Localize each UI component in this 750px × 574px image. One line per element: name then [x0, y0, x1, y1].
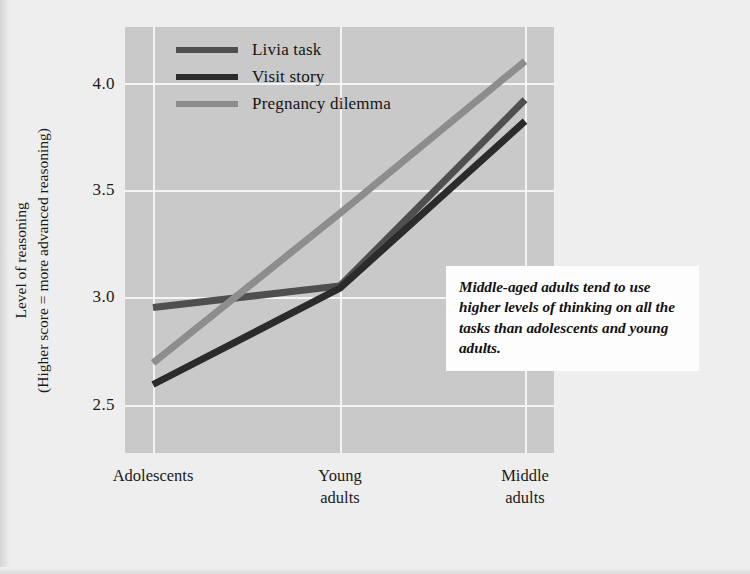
legend-item-label: Visit story — [252, 67, 325, 87]
legend-item-label: Livia task — [252, 40, 322, 60]
y-tick-label: 4.0 — [93, 74, 115, 94]
y-tick-label: 3.0 — [93, 287, 115, 307]
annotation-callout: Middle-aged adults tend to use higher le… — [446, 266, 699, 371]
annotation-text: Middle-aged adults tend to use higher le… — [459, 277, 686, 358]
x-tick-label-line: Adolescents — [113, 465, 194, 487]
legend-item-label: Pregnancy dilemma — [252, 94, 391, 114]
x-tick-label-middle-adults: Middle adults — [501, 465, 549, 509]
x-axis-tick-labels: Adolescents Young adults Middle adults — [0, 455, 750, 525]
legend-color-swatch — [176, 101, 238, 107]
figure-chart: Level of reasoning (Higher score = more … — [0, 0, 750, 574]
x-tick-label-line: Middle — [501, 465, 549, 487]
legend-color-swatch — [176, 74, 238, 80]
x-tick-label-young-adults: Young adults — [318, 465, 361, 509]
y-tick-label: 2.5 — [93, 395, 115, 415]
legend-item-pregnancy-dilemma: Pregnancy dilemma — [176, 90, 436, 117]
x-tick-label-line: adults — [501, 487, 549, 509]
legend-item-visit-story: Visit story — [176, 63, 436, 90]
x-tick-label-line: adults — [318, 487, 361, 509]
y-tick-label: 3.5 — [93, 180, 115, 200]
legend-color-swatch — [176, 47, 238, 53]
x-tick-label-line: Young — [318, 465, 361, 487]
x-tick-label-adolescents: Adolescents — [113, 465, 194, 487]
page-edge-shadow-bottom — [0, 567, 750, 574]
legend-item-livia-task: Livia task — [176, 36, 436, 63]
chart-legend: Livia task Visit story Pregnancy dilemma — [176, 36, 436, 117]
